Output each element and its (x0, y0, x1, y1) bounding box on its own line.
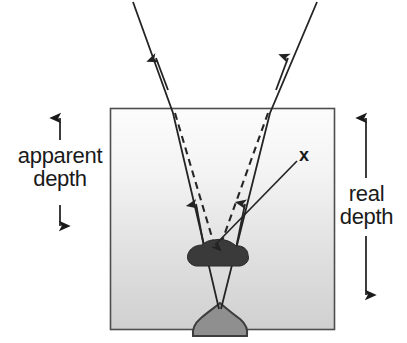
refraction-diagram: apparent depth real depth x (0, 0, 407, 343)
apparent-depth-label-line2: depth (0, 167, 120, 190)
real-depth-label-line1: real (326, 182, 407, 205)
apparent-depth-label-line1: apparent (0, 144, 120, 167)
real-depth-label: real depth (326, 182, 407, 229)
object-marker-label: x (299, 146, 315, 165)
medium-box (111, 109, 335, 330)
real-depth-label-line2: depth (326, 205, 407, 228)
apparent-depth-label: apparent depth (0, 144, 120, 191)
